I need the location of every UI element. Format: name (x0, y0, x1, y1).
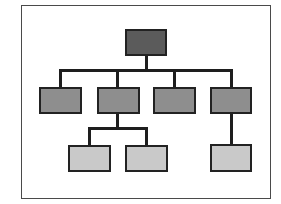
connector-level2-bar (88, 127, 148, 130)
connector-to-mid-2 (116, 69, 119, 88)
org-node-leaf-1 (68, 145, 111, 172)
connector-to-mid-1 (59, 69, 62, 88)
org-node-root (125, 29, 167, 56)
diagram-canvas (0, 0, 281, 204)
org-node-middle-1 (39, 87, 82, 114)
org-node-leaf-3 (210, 144, 252, 172)
org-node-leaf-2 (125, 145, 168, 172)
connector-to-leaf-2 (145, 127, 148, 146)
connector-to-mid-3 (173, 69, 176, 88)
org-node-middle-2 (97, 87, 140, 114)
org-node-middle-4 (210, 87, 252, 114)
connector-to-mid-4 (230, 69, 233, 88)
org-node-middle-3 (153, 87, 196, 114)
connector-mid-4-to-leaf-3 (230, 113, 233, 145)
connector-to-leaf-1 (88, 127, 91, 146)
connector-level1-bar (59, 69, 233, 72)
